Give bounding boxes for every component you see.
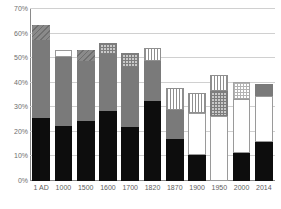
y-tick-label: 50% xyxy=(2,54,28,61)
bar-1000[interactable] xyxy=(55,9,73,181)
y-axis-tick-labels: 0%10%20%30%40%50%60%70% xyxy=(0,9,28,181)
y-tick-label: 30% xyxy=(2,103,28,110)
plot-area xyxy=(30,9,275,181)
y-tick-label: 40% xyxy=(2,79,28,86)
bar-segment-gray xyxy=(55,57,73,126)
bar-segment-black xyxy=(55,126,73,181)
x-tick-label: 1 AD xyxy=(30,184,52,191)
bar-1700[interactable] xyxy=(121,9,139,181)
bar-stack xyxy=(32,25,50,181)
bar-segment-gray xyxy=(32,40,50,119)
bar-segment-crosshatch xyxy=(210,91,228,116)
bar-segment-crosshatch xyxy=(121,53,139,67)
bar-stack xyxy=(99,43,117,181)
bar-1-AD[interactable] xyxy=(32,9,50,181)
bar-stack xyxy=(166,88,184,181)
bar-segment-vstripe xyxy=(188,93,206,114)
bar-segment-white xyxy=(255,96,273,141)
y-tick-label: 10% xyxy=(2,152,28,159)
bar-1870[interactable] xyxy=(166,9,184,181)
bar-segment-black xyxy=(255,142,273,181)
bar-segment-black xyxy=(144,101,162,181)
bar-1600[interactable] xyxy=(99,9,117,181)
bar-segment-gray xyxy=(77,61,95,121)
bar-1820[interactable] xyxy=(144,9,162,181)
bar-stack xyxy=(188,93,206,181)
x-tick-label: 2000 xyxy=(230,184,252,191)
y-tick-label: 20% xyxy=(2,128,28,135)
bar-stack xyxy=(233,82,251,182)
bar-segment-gray xyxy=(144,61,162,102)
bar-segment-vstripe xyxy=(166,88,184,110)
bar-segment-checker-light xyxy=(233,82,251,99)
x-axis-tick-labels: 1 AD100015001600170018201870190019502000… xyxy=(30,184,275,198)
bar-segment-gray xyxy=(99,54,117,111)
bar-segment-gray xyxy=(166,110,184,139)
bar-segment-white xyxy=(210,116,228,181)
bar-segment-black xyxy=(121,127,139,181)
y-tick-label: 70% xyxy=(2,5,28,12)
x-tick-label: 1000 xyxy=(52,184,74,191)
x-tick-label: 1820 xyxy=(141,184,163,191)
bar-stack xyxy=(77,50,95,181)
x-tick-label: 1950 xyxy=(208,184,230,191)
x-tick-label: 1700 xyxy=(119,184,141,191)
bar-stack xyxy=(144,48,162,181)
bar-1950[interactable] xyxy=(210,9,228,181)
bar-segment-black xyxy=(32,118,50,181)
x-tick-label: 1600 xyxy=(97,184,119,191)
bar-segment-white xyxy=(233,99,251,153)
bar-stack xyxy=(255,84,273,181)
bar-segment-vstripe xyxy=(210,75,228,91)
bar-1900[interactable] xyxy=(188,9,206,181)
y-tick-label: 60% xyxy=(2,30,28,37)
x-tick-label: 1500 xyxy=(75,184,97,191)
stacked-bar-chart: 0%10%20%30%40%50%60%70% 1 AD100015001600… xyxy=(0,0,281,209)
bar-segment-crosshatch xyxy=(99,43,117,54)
bar-segment-gray xyxy=(121,67,139,127)
bar-1500[interactable] xyxy=(77,9,95,181)
bar-segment-black xyxy=(166,139,184,181)
bar-segment-gray xyxy=(255,84,273,96)
x-tick-label: 1900 xyxy=(186,184,208,191)
y-tick-label: 0% xyxy=(2,177,28,184)
bar-stack xyxy=(55,50,73,181)
bar-segment-black xyxy=(188,155,206,181)
bar-2014[interactable] xyxy=(255,9,273,181)
bar-segment-black xyxy=(77,121,95,181)
bar-stack xyxy=(210,75,228,181)
bar-segment-diag xyxy=(32,25,50,40)
x-tick-label: 2014 xyxy=(253,184,275,191)
bar-segment-diag xyxy=(77,50,95,61)
bar-segment-black xyxy=(99,111,117,181)
bar-segment-white xyxy=(55,50,73,57)
bar-segment-vstripe xyxy=(144,48,162,60)
bar-segment-white xyxy=(188,113,206,155)
x-tick-label: 1870 xyxy=(164,184,186,191)
bar-segment-black xyxy=(233,153,251,181)
bar-stack xyxy=(121,53,139,181)
bar-2000[interactable] xyxy=(233,9,251,181)
